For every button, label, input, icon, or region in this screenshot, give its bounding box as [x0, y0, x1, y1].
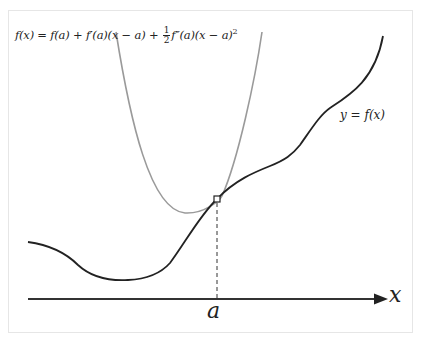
- x-axis-arrow-icon: [374, 294, 388, 305]
- diagram-canvas: [0, 0, 423, 343]
- formula-rhs: f″(a)(x − a): [171, 28, 232, 42]
- taylor-parabola: [116, 32, 262, 213]
- tangent-point-marker: [214, 196, 220, 202]
- x-axis-label: x: [389, 282, 401, 307]
- fraction-denominator: 2: [163, 36, 171, 45]
- taylor-formula: f(x) = f(a) + f′(a)(x − a) + 12f″(a)(x −…: [15, 26, 237, 45]
- formula-fraction: 12: [163, 26, 171, 45]
- curve-label: y = f(x): [340, 108, 385, 122]
- point-a-label: a: [207, 298, 220, 323]
- formula-lhs: f(x) = f(a) + f′(a)(x − a) +: [15, 28, 162, 42]
- function-curve: [28, 36, 383, 280]
- formula-exponent: 2: [233, 27, 238, 36]
